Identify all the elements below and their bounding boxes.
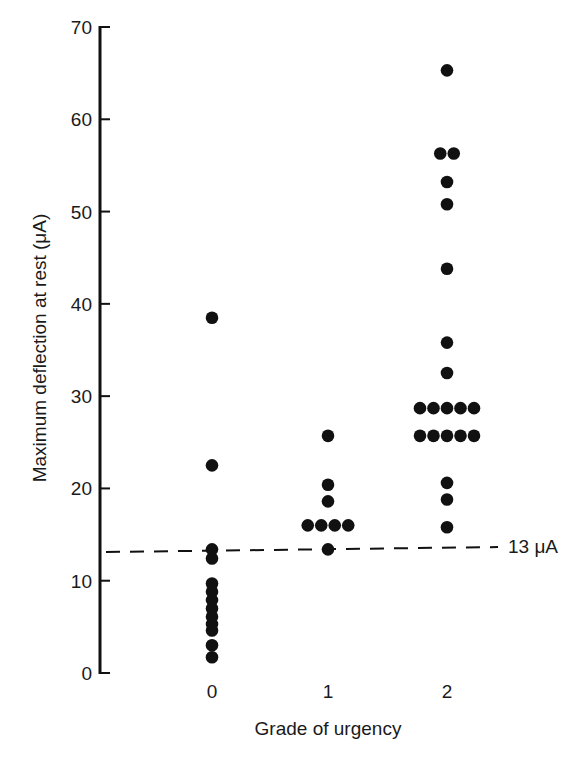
data-point <box>441 262 454 275</box>
x-tick-label: 1 <box>323 681 334 702</box>
data-point <box>427 430 440 443</box>
data-point <box>206 639 219 652</box>
data-point <box>434 147 447 160</box>
y-tick-label: 60 <box>71 109 92 130</box>
data-point <box>441 402 454 415</box>
data-point <box>441 198 454 211</box>
reference-line-label: 13 μA <box>508 536 558 557</box>
y-axis-title: Maximum deflection at rest (μA) <box>29 214 50 483</box>
data-point <box>468 430 481 443</box>
x-tick-labels: 012 <box>207 681 453 702</box>
data-point <box>322 430 335 443</box>
data-points <box>206 64 481 664</box>
data-point <box>301 519 314 532</box>
data-point <box>454 402 467 415</box>
data-point <box>206 624 219 637</box>
y-tick-label: 10 <box>71 571 92 592</box>
y-tick-label: 0 <box>81 663 92 684</box>
y-tick-label: 40 <box>71 294 92 315</box>
data-point <box>441 493 454 506</box>
data-point <box>441 336 454 349</box>
y-axis: 010203040506070 <box>71 17 110 684</box>
data-point <box>206 459 219 472</box>
data-point <box>328 519 341 532</box>
data-point <box>441 64 454 77</box>
y-tick-label: 70 <box>71 17 92 38</box>
reference-line-group <box>106 547 498 552</box>
data-point <box>206 311 219 324</box>
data-point <box>315 519 328 532</box>
data-point <box>454 430 467 443</box>
data-point <box>322 543 335 556</box>
reference-line <box>106 547 498 552</box>
x-axis-title: Grade of urgency <box>255 718 402 739</box>
data-point <box>441 477 454 490</box>
data-point <box>441 521 454 534</box>
data-point <box>414 402 427 415</box>
data-point <box>206 552 219 565</box>
data-point <box>468 402 481 415</box>
data-point <box>414 430 427 443</box>
data-point <box>322 495 335 508</box>
data-point <box>427 402 440 415</box>
data-point <box>441 430 454 443</box>
scatter-chart: 010203040506070 012 Grade of urgency Max… <box>0 0 585 757</box>
data-point <box>206 651 219 664</box>
data-point <box>447 147 460 160</box>
data-point <box>322 478 335 491</box>
y-tick-label: 30 <box>71 386 92 407</box>
data-point <box>441 176 454 189</box>
data-point <box>441 367 454 380</box>
x-tick-label: 0 <box>207 681 218 702</box>
y-tick-label: 20 <box>71 478 92 499</box>
data-point <box>342 519 355 532</box>
y-tick-label: 50 <box>71 202 92 223</box>
x-tick-label: 2 <box>442 681 453 702</box>
